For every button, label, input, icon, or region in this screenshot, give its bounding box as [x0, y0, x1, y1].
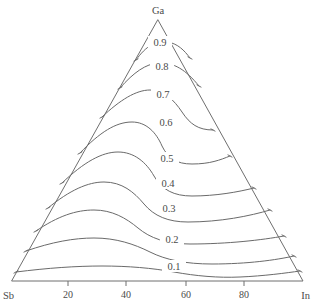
contour-label-0-8-text: 0.8 — [155, 61, 168, 72]
ternary-contour-figure: 0.9 0.8 0.7 0.6 0.5 0.4 — [0, 0, 313, 304]
contour-label-0-3: 0.3 — [157, 202, 181, 214]
contour-label-0-5-text: 0.5 — [160, 153, 173, 164]
contour-label-0-5: 0.5 — [155, 152, 179, 164]
bottom-axis-ticks — [68, 281, 244, 286]
contour-label-0-6-text: 0.6 — [159, 117, 172, 128]
axis-tick-label-40: 40 — [121, 289, 131, 300]
contour-label-0-1: 0.1 — [162, 260, 186, 272]
contour-label-0-6: 0.6 — [154, 116, 178, 128]
contour-label-0-9-text: 0.9 — [153, 37, 166, 48]
contour-edge-tick-left-4 — [60, 182, 65, 185]
contour-label-0-7-text: 0.7 — [156, 89, 169, 100]
contour-edge-tick-left-5 — [46, 207, 51, 210]
axis-tick-label-80: 80 — [239, 289, 249, 300]
vertex-label-sb: Sb — [3, 290, 14, 301]
contour-label-0-9: 0.9 — [148, 36, 172, 48]
axis-tick-label-20: 20 — [63, 289, 73, 300]
vertex-label-in: In — [301, 290, 310, 301]
contour-label-0-8: 0.8 — [150, 60, 174, 72]
contour-edge-tick-left-6 — [34, 230, 39, 233]
vertex-label-ga: Ga — [152, 5, 165, 16]
ternary-plot-svg: 0.9 0.8 0.7 0.6 0.5 0.4 — [0, 0, 313, 304]
contour-label-0-4: 0.4 — [156, 177, 180, 189]
contour-label-0-2: 0.2 — [160, 233, 184, 245]
contour-label-0-4-text: 0.4 — [161, 178, 175, 189]
contour-label-0-7: 0.7 — [151, 88, 175, 100]
contour-line-0-1 — [16, 266, 300, 277]
contour-label-0-1-text: 0.1 — [167, 261, 180, 272]
contour-label-0-2-text: 0.2 — [165, 234, 178, 245]
contour-level-labels: 0.9 0.8 0.7 0.6 0.5 0.4 — [148, 36, 186, 272]
axis-tick-label-60: 60 — [181, 289, 191, 300]
contour-label-0-3-text: 0.3 — [162, 203, 175, 214]
contour-edge-tick-left-7 — [24, 250, 29, 253]
contour-edge-tick-right-0 — [188, 57, 193, 60]
contour-edge-tick-left-3 — [78, 152, 83, 155]
triangle-outline — [12, 20, 303, 281]
contour-edge-tick-right-1 — [197, 85, 202, 88]
